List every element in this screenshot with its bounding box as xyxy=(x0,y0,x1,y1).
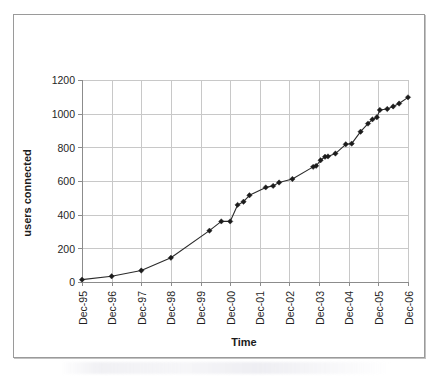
y-axis-tick-labels: 020040060080010001200 xyxy=(52,74,76,288)
y-tick-label: 1000 xyxy=(52,108,76,120)
x-tick-label: Dec-99 xyxy=(195,291,207,325)
y-tick-label: 1200 xyxy=(52,74,76,86)
data-point-marker xyxy=(235,202,240,207)
y-tick-label: 0 xyxy=(69,276,75,288)
y-tick-label: 800 xyxy=(57,142,75,154)
x-tick-label: Dec-00 xyxy=(225,291,237,325)
x-tick-label: Dec-96 xyxy=(106,291,118,325)
y-tick-label: 600 xyxy=(57,175,75,187)
x-tick-label: Dec-01 xyxy=(254,291,266,325)
y-tick-label: 400 xyxy=(57,209,75,221)
x-tick-label: Dec-03 xyxy=(314,291,326,325)
y-axis-title: users connected xyxy=(21,149,33,236)
data-point-marker xyxy=(263,185,268,190)
data-point-marker xyxy=(227,219,232,224)
x-tick-label: Dec-05 xyxy=(373,291,385,325)
page-smudge-band xyxy=(60,362,390,374)
data-point-marker xyxy=(390,104,395,109)
data-point-marker xyxy=(276,180,281,185)
x-tick-label: Dec-97 xyxy=(136,291,148,325)
data-point-marker xyxy=(290,176,295,181)
x-tick-label: Dec-98 xyxy=(165,291,177,325)
series-markers-group xyxy=(79,95,410,283)
y-tick-label: 200 xyxy=(57,243,75,255)
data-point-marker xyxy=(109,274,114,279)
x-tick-label: Dec-04 xyxy=(343,291,355,325)
data-point-marker xyxy=(270,183,275,188)
data-point-marker xyxy=(139,268,144,273)
grid-lines xyxy=(82,80,409,282)
line-chart: 020040060080010001200 Dec-95Dec-96Dec-97… xyxy=(14,15,424,357)
series-path-group xyxy=(82,97,408,279)
series-line xyxy=(82,97,408,279)
x-tick-label: Dec-02 xyxy=(284,291,296,325)
chart-frame: 020040060080010001200 Dec-95Dec-96Dec-97… xyxy=(13,14,425,358)
chart-page: 020040060080010001200 Dec-95Dec-96Dec-97… xyxy=(0,0,439,376)
data-point-marker xyxy=(377,107,382,112)
x-tick-label: Dec-95 xyxy=(77,291,89,325)
y-axis-ticks xyxy=(78,81,82,283)
data-point-marker xyxy=(385,106,390,111)
x-tick-label: Dec-06 xyxy=(403,291,415,325)
x-axis-title: Time xyxy=(231,336,256,348)
x-axis-tick-labels: Dec-95Dec-96Dec-97Dec-98Dec-99Dec-00Dec-… xyxy=(77,291,415,325)
data-point-marker xyxy=(79,277,84,282)
